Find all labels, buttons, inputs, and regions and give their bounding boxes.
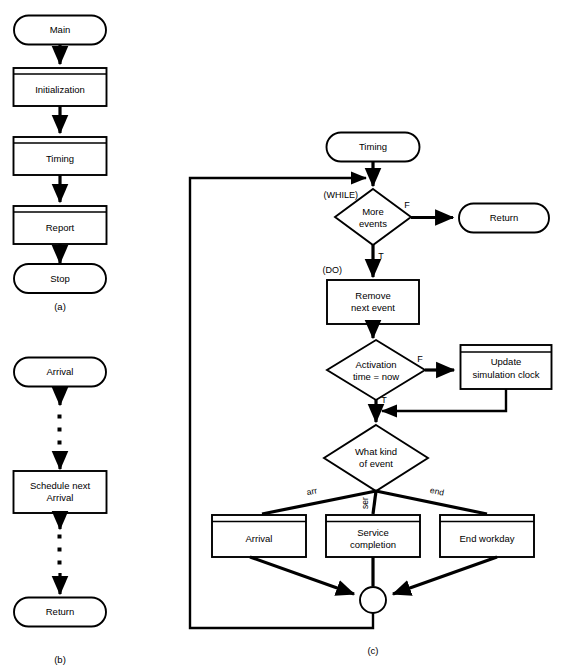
what-kind-label-line1: What kind: [355, 446, 397, 457]
caption-a: (a): [54, 301, 66, 312]
node-end-workday-routine[interactable]: End workday: [440, 515, 534, 557]
node-what-kind-of-event-decision[interactable]: What kind of event: [324, 425, 428, 491]
ellipsis-dot: [58, 441, 62, 445]
ellipsis-dot: [58, 561, 62, 565]
edge-loop-back-to-more-events: [190, 178, 373, 628]
flowchart-figure: Main Initialization Timing Report Stop: [0, 0, 564, 672]
main-label: Main: [50, 24, 71, 35]
panel-c: Timing (WHILE) More events F Return T (D…: [190, 133, 552, 656]
edge-branch-ser: [373, 491, 376, 514]
ellipsis-lower: [58, 535, 62, 565]
label-branch-ser: ser: [360, 497, 370, 509]
node-remove-next-event[interactable]: Remove next event: [327, 280, 419, 324]
panel-a: Main Initialization Timing Report Stop: [14, 16, 107, 312]
label-more-events-false: F: [404, 200, 410, 210]
label-branch-end: end: [429, 485, 445, 498]
ellipsis-dot: [58, 428, 62, 432]
end-workday-label: End workday: [460, 533, 515, 544]
edge-branch-arr: [262, 491, 376, 514]
label-activation-false: F: [417, 354, 423, 364]
node-schedule-next-arrival[interactable]: Schedule next Arrival: [14, 471, 107, 513]
more-events-label-line2: events: [359, 218, 387, 229]
what-kind-label-line2: of event: [359, 458, 393, 469]
node-update-simulation-clock[interactable]: Update simulation clock: [461, 345, 552, 389]
service-completion-label-line2: completion: [350, 539, 396, 550]
update-simulation-clock-label-line1: Update: [491, 356, 522, 367]
label-branch-arr: arr: [306, 485, 318, 497]
node-stop[interactable]: Stop: [14, 264, 106, 293]
update-simulation-clock-label-line2: simulation clock: [472, 369, 539, 380]
timing-label: Timing: [46, 153, 74, 164]
remove-next-event-label-line2: next event: [351, 302, 395, 313]
edge-arrival-to-junction: [250, 557, 354, 594]
activation-time-label-line1: Activation: [355, 359, 396, 370]
initialization-label: Initialization: [35, 84, 85, 95]
label-while-keyword: (WHILE): [324, 190, 359, 200]
flowchart-canvas: Main Initialization Timing Report Stop: [0, 0, 564, 672]
activation-time-label-line2: time = now: [353, 371, 399, 382]
node-arrival-routine[interactable]: Arrival: [212, 515, 306, 557]
node-main[interactable]: Main: [14, 16, 106, 45]
merge-junction-connector[interactable]: [360, 587, 386, 613]
service-completion-label-line1: Service: [357, 527, 389, 538]
ellipsis-dot: [58, 548, 62, 552]
ellipsis-dot: [58, 535, 62, 539]
arrival-entry-label: Arrival: [47, 366, 74, 377]
schedule-next-arrival-label-line1: Schedule next: [30, 480, 91, 491]
label-more-events-true: T: [378, 251, 384, 261]
caption-b: (b): [54, 654, 66, 665]
caption-c: (c): [367, 645, 378, 656]
schedule-next-arrival-label-line2: Arrival: [47, 492, 74, 503]
edge-update-back-to-true-path: [382, 389, 506, 411]
node-arrival-entry[interactable]: Arrival: [14, 358, 106, 387]
ellipsis-upper: [58, 415, 62, 445]
node-report[interactable]: Report: [14, 206, 107, 244]
node-return-exit-c[interactable]: Return: [459, 204, 549, 233]
node-initialization[interactable]: Initialization: [14, 68, 107, 106]
node-return-exit-b[interactable]: Return: [14, 598, 106, 627]
remove-next-event-label-line1: Remove: [355, 290, 390, 301]
ellipsis-dot: [58, 415, 62, 419]
node-timing-entry[interactable]: Timing: [327, 133, 420, 162]
node-timing[interactable]: Timing: [14, 137, 107, 175]
report-label: Report: [46, 222, 75, 233]
node-activation-time-decision[interactable]: Activation time = now: [327, 340, 425, 400]
return-exit-label: Return: [46, 606, 75, 617]
edge-end-workday-to-junction: [393, 557, 497, 594]
panel-b: Arrival Schedule next Arrival Return: [14, 358, 107, 665]
stop-label: Stop: [50, 273, 70, 284]
return-exit-c-label: Return: [490, 212, 519, 223]
timing-entry-label: Timing: [359, 141, 387, 152]
label-activation-true: T: [381, 395, 387, 405]
more-events-label-line1: More: [362, 206, 384, 217]
arrival-routine-label: Arrival: [246, 533, 273, 544]
label-do-keyword: (DO): [323, 265, 343, 275]
node-service-completion-routine[interactable]: Service completion: [326, 515, 420, 557]
